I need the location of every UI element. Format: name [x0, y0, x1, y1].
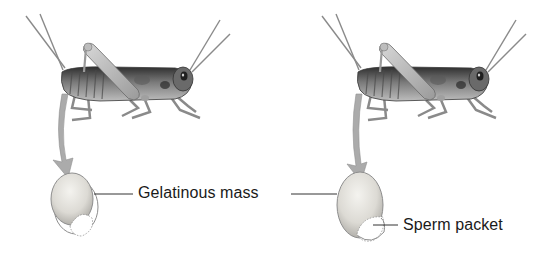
diagram: Gelatinous mass Sperm packet — [0, 0, 559, 255]
arrow-right-icon — [347, 94, 367, 182]
cricket-left-illustration — [26, 14, 230, 120]
gelatinous-mass-right-icon — [337, 172, 385, 241]
gelatinous-mass-label: Gelatinous mass — [138, 184, 259, 202]
cricket-right-illustration — [322, 14, 526, 120]
sperm-packet-label: Sperm packet — [403, 216, 503, 234]
arrow-left-icon — [53, 94, 73, 178]
gelatinous-mass-left-icon — [51, 173, 98, 236]
